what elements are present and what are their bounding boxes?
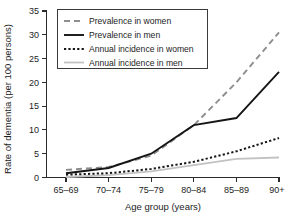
x-tick-label: 80–84: [181, 185, 206, 195]
y-tick-label: 30: [29, 30, 39, 40]
x-tick-label: 90+: [269, 185, 284, 195]
legend-label: Prevalence in men: [89, 30, 160, 40]
y-tick-label: 5: [34, 149, 39, 159]
x-tick-label: 65–69: [53, 185, 78, 195]
y-axis-ticks: 0 5 10 15 20 25 30 35: [29, 6, 47, 183]
x-axis-ticks: 65–69 70–74 75–79 80–84 85–89 90+: [53, 178, 284, 195]
y-tick-label: 0: [34, 173, 39, 183]
y-tick-label: 15: [29, 101, 39, 111]
chart-figure: Rate of dementia (per 100 persons) 0 5 1…: [0, 0, 287, 219]
legend: Prevalence in women Prevalence in men An…: [58, 10, 208, 69]
legend-label: Annual incidence in men: [89, 58, 183, 68]
line-chart: Rate of dementia (per 100 persons) 0 5 1…: [0, 0, 287, 219]
legend-label: Annual incidence in women: [89, 44, 194, 54]
x-axis-title: Age group (years): [125, 201, 201, 212]
y-tick-label: 25: [29, 54, 39, 64]
y-tick-label: 35: [29, 6, 39, 16]
y-axis-title: Rate of dementia (per 100 persons): [2, 24, 13, 174]
y-tick-label: 10: [29, 125, 39, 135]
x-tick-label: 75–79: [139, 185, 164, 195]
legend-label: Prevalence in women: [89, 16, 171, 26]
y-tick-label: 20: [29, 78, 39, 88]
x-tick-label: 70–74: [96, 185, 121, 195]
x-tick-label: 85–89: [224, 185, 249, 195]
